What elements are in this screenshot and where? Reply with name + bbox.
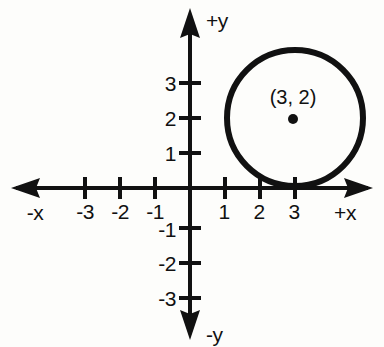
x-tick-label-1: 1 [218, 201, 229, 222]
y-tick-label-2: 2 [165, 108, 176, 129]
x-axis-positive-arrow-icon [344, 178, 373, 198]
y-axis-positive-arrow-icon [180, 8, 200, 38]
y-axis-negative-label: -y [206, 324, 223, 345]
y-tick-label-1: 1 [165, 143, 176, 164]
x-tick-label--3: -3 [76, 201, 94, 222]
graph-figure: (3, 2) -3 -2 -1 1 2 3 3 2 1 -1 -2 -3 -x … [0, 0, 384, 347]
y-tick-label--1: -1 [158, 219, 176, 240]
x-axis-negative-label: -x [27, 202, 44, 223]
x-axis-positive-label: +x [334, 202, 356, 223]
x-tick-label-3: 3 [288, 201, 299, 222]
coordinate-plane-svg [0, 0, 384, 347]
y-tick-label-3: 3 [165, 73, 176, 94]
x-axis-negative-arrow-icon [11, 178, 40, 198]
x-tick-label-2: 2 [253, 201, 264, 222]
y-axis-positive-label: +y [206, 10, 228, 31]
y-axis-negative-arrow-icon [180, 310, 200, 340]
center-point-marker [288, 114, 298, 124]
y-tick-label--2: -2 [158, 253, 176, 274]
x-tick-label--2: -2 [111, 201, 129, 222]
y-tick-label--3: -3 [158, 288, 176, 309]
center-point-label: (3, 2) [270, 87, 317, 107]
